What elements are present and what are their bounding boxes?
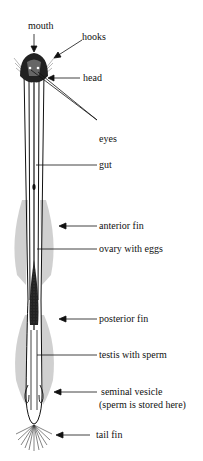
label-posterior-fin: posterior fin	[99, 313, 148, 324]
label-tail-fin: tail fin	[96, 429, 122, 440]
label-testis: testis with sperm	[99, 349, 167, 360]
label-mouth: mouth	[28, 20, 54, 31]
label-ovary: ovary with eggs	[99, 243, 163, 254]
label-hooks: hooks	[82, 31, 106, 42]
label-head: head	[83, 72, 102, 83]
testis	[31, 330, 37, 410]
label-anterior-fin: anterior fin	[99, 220, 144, 231]
label-gut: gut	[99, 159, 112, 170]
ovary	[30, 260, 39, 325]
label-eyes: eyes	[99, 133, 117, 144]
seminal-vesicle	[25, 385, 43, 403]
label-seminal-vesicle: seminal vesicle	[101, 386, 162, 397]
label-seminal-vesicle-note: (sperm is stored here)	[99, 399, 186, 410]
tail-fin	[16, 425, 52, 451]
